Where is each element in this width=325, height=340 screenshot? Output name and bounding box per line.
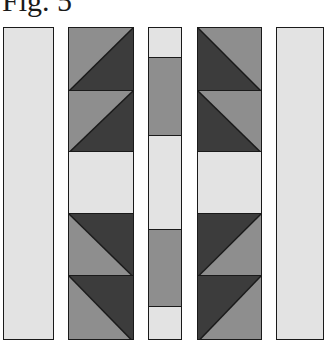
solid-block — [277, 28, 323, 340]
half-square-triangle-block — [198, 90, 261, 153]
half-square-triangle-block — [69, 28, 133, 91]
half-square-triangle-block — [69, 275, 133, 340]
half-square-triangle-block — [198, 275, 261, 340]
strip-2-flying-geese — [68, 27, 134, 340]
solid-block — [149, 229, 181, 308]
solid-block — [149, 135, 181, 231]
half-square-triangle-block — [198, 213, 261, 277]
figure-title: Fig. 5 — [2, 0, 72, 16]
strip-5-plain — [276, 27, 324, 340]
strip-1-plain — [3, 27, 54, 340]
strip-4-flying-geese — [197, 27, 262, 340]
solid-block — [4, 28, 53, 340]
solid-block — [149, 306, 181, 340]
solid-block — [149, 57, 181, 137]
half-square-triangle-block — [69, 90, 133, 153]
solid-block — [198, 151, 261, 215]
half-square-triangle-block — [198, 28, 261, 91]
strip-3-center — [148, 27, 182, 340]
half-square-triangle-block — [69, 213, 133, 277]
solid-block — [69, 151, 133, 215]
solid-block — [149, 28, 181, 58]
